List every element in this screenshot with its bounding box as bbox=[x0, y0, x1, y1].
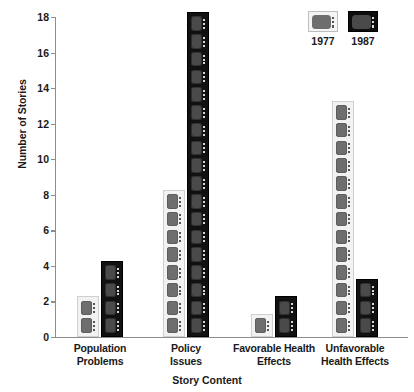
bar-1987[interactable] bbox=[356, 279, 378, 337]
tv-knob bbox=[117, 272, 119, 274]
tv-knob bbox=[203, 293, 205, 295]
tv-knob bbox=[348, 183, 350, 185]
y-axis-tick-mark bbox=[51, 266, 56, 267]
y-axis-tick-mark bbox=[51, 53, 56, 54]
tv-knob bbox=[93, 329, 95, 331]
tv-screen bbox=[336, 141, 348, 156]
bar-1977[interactable] bbox=[77, 296, 99, 337]
tv-icon bbox=[190, 15, 207, 33]
tv-icon bbox=[359, 281, 376, 299]
tv-knob bbox=[179, 307, 181, 309]
tv-knob bbox=[348, 187, 350, 189]
tv-knob bbox=[372, 311, 374, 313]
tv-knob bbox=[348, 311, 350, 313]
legend-swatch-tv-icon-dark bbox=[348, 11, 378, 32]
tv-knob bbox=[348, 258, 350, 260]
tv-knob bbox=[348, 169, 350, 171]
tv-knob bbox=[372, 25, 374, 27]
tv-knob bbox=[179, 232, 181, 234]
tv-screen bbox=[255, 318, 267, 333]
tv-knob bbox=[372, 303, 374, 305]
tv-icon bbox=[335, 228, 352, 246]
tv-knob bbox=[291, 329, 293, 331]
tv-screen bbox=[167, 265, 179, 280]
tv-icon bbox=[104, 317, 121, 335]
tv-icon bbox=[80, 317, 97, 335]
tv-knob bbox=[348, 222, 350, 224]
tv-screen bbox=[336, 265, 348, 280]
tv-knob bbox=[179, 240, 181, 242]
tv-knob bbox=[372, 17, 374, 19]
tv-screen bbox=[360, 283, 372, 298]
tv-knob bbox=[203, 23, 205, 25]
tv-screen bbox=[279, 318, 291, 333]
y-axis-tick-mark bbox=[51, 124, 56, 125]
pictogram-bar-chart: Number of Stories 024681012141618 Popula… bbox=[0, 0, 414, 392]
x-axis-title: Story Content bbox=[0, 374, 414, 386]
tv-icon bbox=[190, 246, 207, 264]
tv-knob bbox=[291, 303, 293, 305]
bar-pair bbox=[163, 12, 209, 337]
tv-knob bbox=[332, 25, 334, 27]
tv-screen bbox=[336, 176, 348, 191]
tv-knob bbox=[372, 329, 374, 331]
category-label-line: Unfavorable bbox=[295, 342, 414, 355]
bar-1987[interactable] bbox=[275, 296, 297, 337]
tv-screen bbox=[336, 194, 348, 209]
tv-icon bbox=[335, 139, 352, 157]
tv-knob bbox=[179, 268, 181, 270]
tv-knob bbox=[203, 72, 205, 74]
tv-knob bbox=[291, 325, 293, 327]
y-axis-tick-mark bbox=[51, 301, 56, 302]
y-axis-tick-label: 8 bbox=[43, 189, 49, 201]
tv-icon bbox=[104, 281, 121, 299]
bar-1977[interactable] bbox=[251, 314, 273, 337]
tv-screen bbox=[360, 301, 372, 316]
tv-knob bbox=[117, 321, 119, 323]
tv-knob bbox=[203, 98, 205, 100]
bar-1987[interactable] bbox=[101, 261, 123, 337]
y-axis-tick-mark bbox=[51, 230, 56, 231]
tv-icon bbox=[190, 68, 207, 86]
tv-screen bbox=[167, 247, 179, 262]
bar-pair bbox=[77, 261, 123, 337]
tv-knob bbox=[117, 293, 119, 295]
tv-knob bbox=[348, 254, 350, 256]
y-axis-tick-mark bbox=[51, 195, 56, 196]
tv-screen bbox=[191, 318, 203, 333]
tv-knob bbox=[117, 307, 119, 309]
y-axis-tick-label: 12 bbox=[37, 118, 49, 130]
tv-knob bbox=[93, 325, 95, 327]
tv-knob bbox=[348, 108, 350, 110]
tv-knob bbox=[348, 165, 350, 167]
tv-knob bbox=[179, 329, 181, 331]
tv-knob bbox=[117, 290, 119, 292]
tv-knob bbox=[372, 290, 374, 292]
tv-knob bbox=[348, 240, 350, 242]
tv-knob bbox=[179, 325, 181, 327]
tv-icon bbox=[278, 299, 295, 317]
bar-1977[interactable] bbox=[163, 190, 185, 337]
tv-knob bbox=[348, 201, 350, 203]
tv-icon bbox=[190, 299, 207, 317]
tv-knob bbox=[203, 236, 205, 238]
tv-icon bbox=[335, 121, 352, 139]
tv-icon bbox=[335, 192, 352, 210]
tv-knob bbox=[203, 45, 205, 47]
tv-icon bbox=[104, 299, 121, 317]
tv-knob bbox=[179, 222, 181, 224]
bar-1977[interactable] bbox=[332, 101, 354, 337]
tv-icon bbox=[335, 263, 352, 281]
bar-1987[interactable] bbox=[187, 12, 209, 337]
tv-knob bbox=[372, 321, 374, 323]
tv-knob bbox=[267, 321, 269, 323]
tv-knob bbox=[117, 286, 119, 288]
y-axis-tick-label: 2 bbox=[43, 295, 49, 307]
tv-icon bbox=[190, 317, 207, 335]
tv-knob bbox=[203, 214, 205, 216]
tv-knob bbox=[203, 130, 205, 132]
tv-knob bbox=[348, 151, 350, 153]
tv-knob bbox=[203, 272, 205, 274]
tv-screen bbox=[191, 70, 203, 85]
tv-knob bbox=[117, 303, 119, 305]
